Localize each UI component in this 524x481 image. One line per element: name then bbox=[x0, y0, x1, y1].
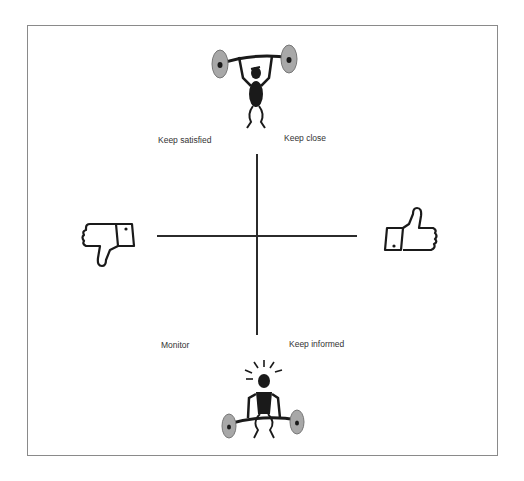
thumbs-up-icon bbox=[383, 204, 439, 256]
horizontal-axis bbox=[157, 235, 357, 237]
quadrant-label-monitor: Monitor bbox=[161, 340, 189, 350]
thumbs-down-icon bbox=[80, 218, 136, 270]
weightlifter-overhead-icon bbox=[205, 40, 305, 132]
quadrant-label-keep-close: Keep close bbox=[284, 133, 326, 143]
vertical-axis bbox=[256, 154, 258, 335]
quadrant-label-keep-satisfied: Keep satisfied bbox=[158, 135, 211, 145]
quadrant-label-keep-informed: Keep informed bbox=[289, 339, 344, 349]
weightlifter-struggling-icon bbox=[218, 360, 308, 442]
